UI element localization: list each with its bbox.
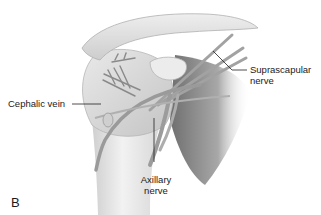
label-suprascapular-line1: Suprascapular [250,64,311,75]
shoulder-anatomy-figure: Cephalic vein Suprascapular nerve Axilla… [0,0,321,215]
vessel-stump [103,113,113,127]
label-suprascapular-nerve: Suprascapular nerve [250,64,311,86]
label-axillary-line2: nerve [136,185,176,196]
label-suprascapular-line2: nerve [250,75,311,86]
label-axillary-line1: Axillary [136,174,176,185]
label-axillary-nerve: Axillary nerve [136,174,176,196]
label-cephalic-vein: Cephalic vein [8,98,65,109]
panel-letter: B [11,195,20,210]
